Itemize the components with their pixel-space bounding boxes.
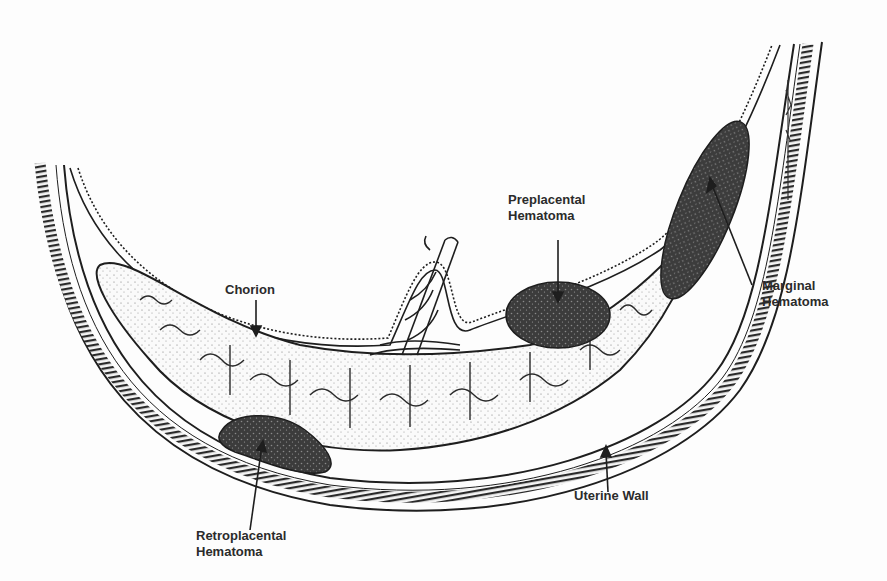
label-preplacental-hematoma: Preplacental Hematoma — [508, 192, 585, 224]
label-preplacental-line2: Hematoma — [508, 208, 585, 224]
label-retroplacental-hematoma: Retroplacental Hematoma — [196, 528, 286, 560]
label-retroplacental-line1: Retroplacental — [196, 528, 286, 544]
label-preplacental-line1: Preplacental — [508, 192, 585, 208]
label-uterine-wall: Uterine Wall — [574, 488, 649, 504]
label-retroplacental-line2: Hematoma — [196, 544, 286, 560]
label-marginal-hematoma: Marginal Hematoma — [762, 278, 828, 310]
label-chorion: Chorion — [225, 282, 275, 298]
label-marginal-line2: Hematoma — [762, 294, 828, 310]
marginal-hematoma-shape — [643, 111, 766, 308]
placenta-diagram: Chorion Preplacental Hematoma Marginal H… — [0, 0, 887, 581]
label-marginal-line1: Marginal — [762, 278, 828, 294]
diagram-illustration — [0, 0, 887, 581]
